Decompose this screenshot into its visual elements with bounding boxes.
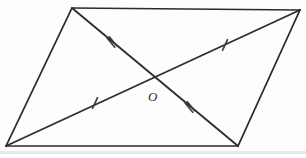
side-right <box>238 10 300 146</box>
side-top <box>72 8 300 10</box>
center-point-label: O <box>148 89 158 104</box>
diagonal-d-b <box>6 10 300 146</box>
baseline-shadow-band <box>0 151 306 154</box>
parallelogram-diagram: O <box>0 0 306 158</box>
geometry-figure-canvas: O <box>0 0 306 158</box>
side-left <box>6 8 72 146</box>
